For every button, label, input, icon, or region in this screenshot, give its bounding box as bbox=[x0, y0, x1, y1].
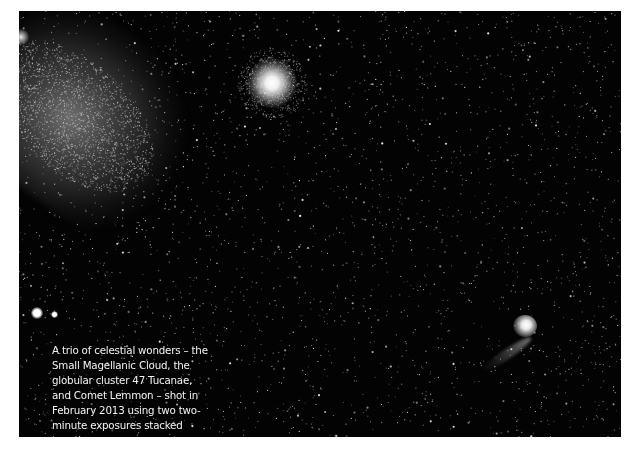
globular-cluster-47-tucanae bbox=[247, 58, 297, 108]
bright-star bbox=[31, 307, 43, 319]
caption-text: A trio of celestial wonders – the Small … bbox=[52, 344, 208, 437]
bright-star bbox=[51, 311, 58, 318]
comet-lemmon bbox=[513, 315, 537, 337]
photo-caption: A trio of celestial wonders – the Small … bbox=[52, 343, 212, 437]
astrophotograph: A trio of celestial wonders – the Small … bbox=[19, 11, 621, 437]
